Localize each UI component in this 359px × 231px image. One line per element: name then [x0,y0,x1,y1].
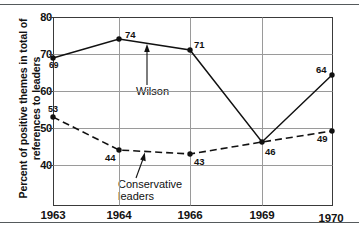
data-point-conservative-1964 [116,147,121,152]
point-label-wilson-1969: 46 [265,146,276,157]
data-point-conservative-1970 [329,128,334,133]
plot-area: 69 74 71 46 64 53 44 43 49 [0,0,359,231]
point-label-wilson-1966: 71 [194,39,205,50]
data-point-wilson-1966 [187,47,192,52]
point-label-wilson-1964: 74 [125,29,136,40]
data-point-wilson-1964 [116,36,121,41]
point-label-conservative-1966: 43 [194,156,205,167]
data-point-conservative-1966 [187,151,192,156]
series-line-conservative-leaders [53,117,332,154]
data-point-conservative-1963 [50,114,55,119]
point-label-wilson-1963: 69 [49,60,59,70]
point-label-conservative-1963: 53 [48,104,58,114]
data-point-wilson-1969 [259,139,264,144]
point-label-wilson-1970: 64 [316,64,327,75]
point-label-conservative-1964: 44 [105,152,116,163]
annotation-arrow-wilson [144,44,150,85]
point-label-conservative-1970: 49 [317,133,328,144]
data-point-wilson-1970 [329,72,334,77]
chart-figure: Percent of positive themes in total of r… [0,0,359,231]
